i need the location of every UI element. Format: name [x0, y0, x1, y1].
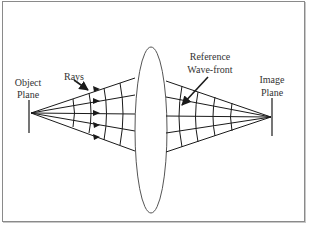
- wavefront-pointer-arrow: [182, 77, 208, 105]
- lens: [135, 47, 167, 213]
- reference-wavefront-label-2: Wave-front: [187, 64, 233, 75]
- lens-diagram: Object Plane Rays Reference Wave-front I…: [0, 0, 309, 229]
- image-plane-label-1: Image: [260, 74, 286, 85]
- image-plane-label-2: Plane: [261, 87, 284, 98]
- object-plane-label-2: Plane: [17, 89, 40, 100]
- reference-wavefront-right: [166, 81, 271, 152]
- converging-rays-left: [31, 78, 135, 151]
- rays-label: Rays: [64, 71, 84, 82]
- object-plane-label-1: Object: [15, 77, 42, 88]
- reference-wavefront-label-1: Reference: [190, 51, 231, 62]
- ray-arrowheads: [93, 86, 100, 140]
